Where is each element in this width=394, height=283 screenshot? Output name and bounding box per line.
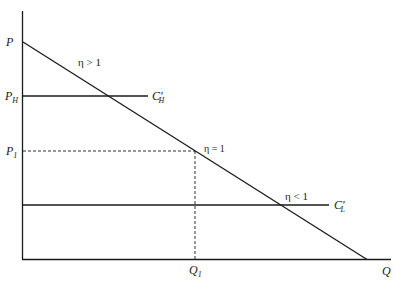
elasticity-label-unit: η = 1 (204, 143, 225, 154)
quantity-label-q1: Q1 (189, 263, 202, 279)
elasticity-label-inelastic: η < 1 (285, 190, 308, 202)
elasticity-label-elastic: η > 1 (78, 56, 101, 68)
price-label-p1: P1 (5, 144, 17, 160)
cost-label-high: C'H (152, 89, 166, 105)
axis-label-q: Q (382, 264, 391, 278)
price-label-p: P (5, 35, 14, 49)
cost-label-low: C'L (334, 198, 346, 214)
price-label-ph: PH (4, 89, 19, 105)
elasticity-diagram: P PH P1 Q1 Q C'H C'L η > 1 η = 1 η < 1 (0, 0, 394, 283)
